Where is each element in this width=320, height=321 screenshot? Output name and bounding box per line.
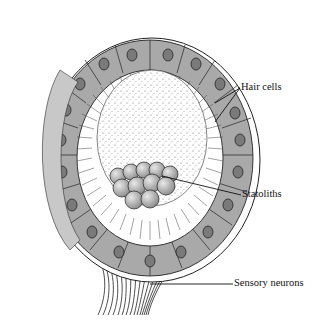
label-sensory-neurons: Sensory neurons xyxy=(234,278,304,289)
label-statoliths: Statoliths xyxy=(242,189,282,200)
statocyst-diagram: Hair cells Statoliths Sensory neurons xyxy=(0,0,320,321)
statocyst-illustration xyxy=(0,0,320,321)
label-hair-cells: Hair cells xyxy=(241,82,282,93)
